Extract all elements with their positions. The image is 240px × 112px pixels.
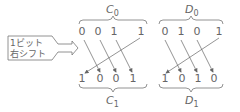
bit: 1 [77, 72, 87, 85]
bit: 1 [193, 72, 203, 85]
bit: 0 [111, 72, 121, 85]
bit: 0 [177, 72, 187, 85]
bit: 1 [128, 72, 138, 85]
bit: 0 [95, 72, 105, 85]
brace-d1 [159, 84, 223, 92]
bit: 1 [109, 25, 119, 38]
bit: 0 [192, 25, 202, 38]
bit: 0 [77, 25, 87, 38]
label-d0: D0 [185, 3, 199, 18]
bit: 0 [209, 72, 219, 85]
label-c0: C0 [106, 3, 119, 18]
bit: 1 [176, 25, 186, 38]
bit: 1 [160, 72, 170, 85]
brace-c1 [79, 84, 147, 92]
label-d1: D1 [185, 94, 199, 109]
bit: 0 [93, 25, 103, 38]
bit: 0 [160, 25, 170, 38]
bit: 1 [136, 25, 146, 38]
label-c1: C1 [106, 94, 119, 109]
callout-line1: 1ビット [10, 38, 50, 49]
callout-line2: 右シフト [10, 49, 50, 60]
bit: 1 [214, 25, 224, 38]
shift-callout: 1ビット 右シフト [10, 38, 50, 60]
